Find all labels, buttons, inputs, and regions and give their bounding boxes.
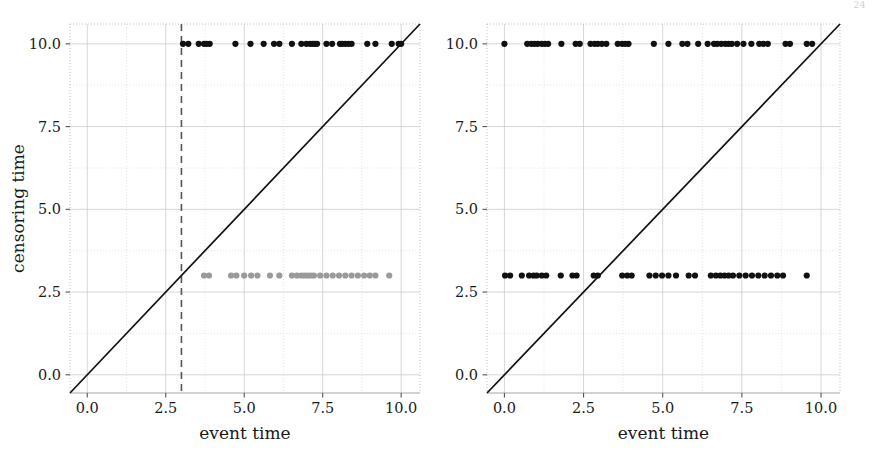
data-point — [248, 272, 254, 278]
data-point — [336, 272, 342, 278]
data-point — [372, 272, 378, 278]
y-tick-label: 2.5 — [38, 284, 61, 300]
data-point — [330, 272, 336, 278]
x-axis-label: event time — [199, 423, 290, 443]
data-point — [625, 41, 631, 47]
y-tick-label: 2.5 — [455, 284, 478, 300]
data-point — [323, 272, 329, 278]
data-point — [247, 41, 253, 47]
data-point — [684, 41, 690, 47]
data-point — [228, 272, 234, 278]
x-tick-label: 5.0 — [233, 400, 256, 416]
y-tick-label: 5.0 — [455, 201, 478, 217]
x-tick-label: 7.5 — [311, 400, 334, 416]
x-tick-label: 10.0 — [385, 400, 417, 416]
data-point — [629, 272, 635, 278]
x-tick-label: 0.0 — [493, 400, 516, 416]
data-point — [673, 272, 679, 278]
annotations — [70, 24, 420, 393]
y-tick-label: 7.5 — [455, 119, 478, 135]
data-point — [665, 41, 671, 47]
data-point — [730, 272, 736, 278]
y-tick-label: 0.0 — [455, 367, 478, 383]
y-axis-label: censoring time — [8, 144, 28, 273]
identity-line — [487, 24, 840, 393]
data-point — [743, 272, 749, 278]
data-point — [289, 41, 295, 47]
data-point — [774, 272, 780, 278]
data-point — [573, 272, 579, 278]
data-point — [545, 41, 551, 47]
data-point — [342, 272, 348, 278]
data-point — [329, 41, 335, 47]
data-point — [233, 272, 239, 278]
data-point — [361, 272, 367, 278]
data-point — [311, 272, 317, 278]
data-point — [398, 41, 404, 47]
scatter-plot-left-svg: 0.02.55.07.510.00.02.55.07.510.0event ti… — [0, 0, 440, 453]
data-point — [364, 41, 370, 47]
data-point — [577, 41, 583, 47]
data-point — [595, 272, 601, 278]
data-point — [501, 41, 507, 47]
data-point — [267, 272, 273, 278]
x-tick-label: 2.5 — [154, 400, 177, 416]
data-point — [780, 272, 786, 278]
data-point — [705, 41, 711, 47]
data-point — [804, 272, 810, 278]
data-point — [271, 41, 277, 47]
data-point — [543, 272, 549, 278]
scatter-plot-right-svg: 0.02.55.07.510.00.02.55.07.510.0event ti… — [432, 0, 872, 453]
data-point — [207, 41, 213, 47]
data-point — [804, 41, 810, 47]
data-point — [314, 41, 320, 47]
data-point — [386, 272, 392, 278]
data-point — [196, 41, 202, 47]
data-point — [748, 41, 754, 47]
x-axis-label: event time — [618, 423, 709, 443]
x-tick-label: 5.0 — [651, 400, 674, 416]
data-point — [755, 272, 761, 278]
data-point — [276, 41, 282, 47]
identity-line — [70, 24, 420, 393]
data-point — [762, 272, 768, 278]
data-point — [254, 272, 260, 278]
data-point — [276, 272, 282, 278]
data-point — [734, 41, 740, 47]
data-point — [692, 272, 698, 278]
data-point — [809, 41, 815, 47]
y-tick-label: 10.0 — [446, 36, 478, 52]
data-point — [695, 41, 701, 47]
data-point — [765, 41, 771, 47]
data-point — [519, 272, 525, 278]
scatter-panel-right: 0.02.55.07.510.00.02.55.07.510.0event ti… — [432, 0, 872, 453]
data-point — [372, 41, 378, 47]
data-point — [736, 272, 742, 278]
figure-root: 24 0.02.55.07.510.00.02.55.07.510.0event… — [0, 0, 872, 453]
y-tick-label: 10.0 — [29, 36, 61, 52]
y-tick-label: 5.0 — [38, 201, 61, 217]
data-point — [768, 272, 774, 278]
data-point — [787, 41, 793, 47]
data-point — [348, 41, 354, 47]
data-point — [323, 41, 329, 47]
data-point — [686, 272, 692, 278]
data-point — [185, 41, 191, 47]
data-point — [659, 272, 665, 278]
x-tick-label: 7.5 — [730, 400, 753, 416]
data-point — [206, 272, 212, 278]
scatter-panel-left: 0.02.55.07.510.00.02.55.07.510.0event ti… — [0, 0, 440, 453]
data-points — [501, 41, 815, 279]
series-censored-at-3 — [502, 272, 810, 278]
data-point — [749, 272, 755, 278]
data-point — [646, 272, 652, 278]
x-tick-label: 0.0 — [76, 400, 99, 416]
data-point — [665, 272, 671, 278]
y-tick-label: 0.0 — [38, 367, 61, 383]
data-point — [389, 41, 395, 47]
data-point — [740, 41, 746, 47]
data-point — [180, 41, 186, 47]
data-point — [653, 272, 659, 278]
data-point — [355, 272, 361, 278]
data-point — [317, 272, 323, 278]
